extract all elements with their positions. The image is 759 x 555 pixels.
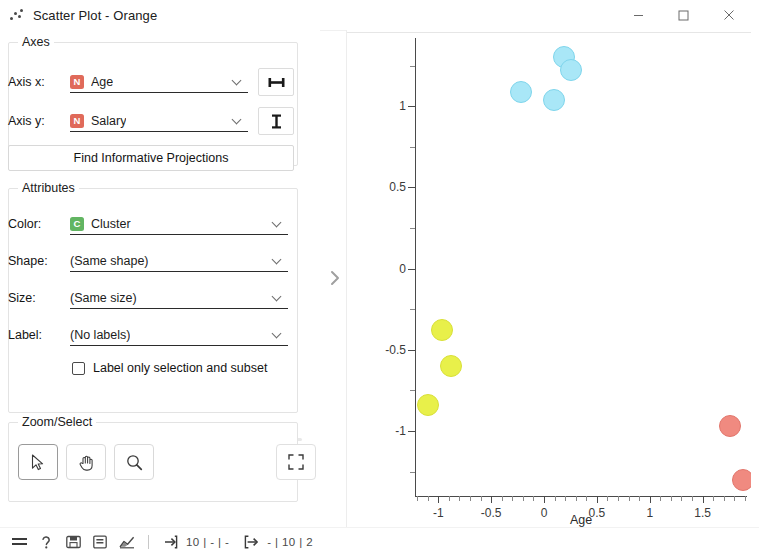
x-tick-minor [417,496,418,501]
variable-type-badge-categorical: C [70,217,84,231]
y-tick-minor [410,309,415,310]
scatter-point[interactable] [719,415,741,437]
panel-splitter[interactable] [321,30,347,527]
y-tick-label: -0.5 [385,343,406,357]
y-tick-label: 0 [399,262,406,276]
y-tick-minor [410,66,415,67]
x-tick-minor [607,496,608,501]
chevron-down-icon [273,256,282,265]
x-tick-minor [533,496,534,501]
label-label: Label: [8,328,70,342]
x-tick-minor [671,496,672,501]
x-tick [491,496,492,503]
color-combobox[interactable]: C Cluster [70,213,288,235]
label-only-selection-checkbox[interactable] [72,362,85,375]
scatter-point[interactable] [560,59,582,81]
scatter-point[interactable] [543,89,565,111]
main-area: Axes Axis x: N Age Axis y: N Salary [0,30,751,527]
label-combobox[interactable]: (No labels) [70,324,288,346]
y-tick-minor [410,390,415,391]
x-tick-minor [502,496,503,501]
minimize-button[interactable] [616,0,661,30]
chevron-down-icon [273,330,282,339]
axis-y-combobox[interactable]: N Salary [70,110,248,132]
shape-row: Shape: (Same shape) [8,250,298,272]
cursor-arrow-icon [31,454,46,471]
chevron-down-icon [233,116,242,125]
vertical-axis-icon [271,114,282,129]
shape-combobox[interactable]: (Same shape) [70,250,288,272]
fit-to-screen-icon [288,454,304,470]
x-tick-minor [555,496,556,501]
select-tool-button[interactable] [18,444,58,480]
y-tick [408,269,415,270]
y-tick-label: 1 [399,99,406,113]
x-tick-minor [523,496,524,501]
scatter-plot-canvas[interactable]: 10.50-0.5-1 -1-0.500.511.5 Salary Age [347,30,751,527]
x-tick-minor [618,496,619,501]
attributes-group-title: Attributes [18,181,79,195]
x-tick-minor [459,496,460,501]
input-arrow-icon [159,532,181,552]
menu-hamburger-icon[interactable] [8,532,30,552]
maximize-button[interactable] [661,0,706,30]
x-tick [438,496,439,503]
output-summary-text: - | 10 | 2 [267,536,313,548]
x-tick-minor [586,496,587,501]
x-tick-minor [692,496,693,501]
x-tick-label: 0 [541,506,548,520]
axis-x-value: Age [91,75,113,89]
x-tick-minor [629,496,630,501]
pan-tool-button[interactable] [66,444,106,480]
zoom-select-toolbar [18,444,154,480]
x-tick-minor [512,496,513,501]
label-row: Label: (No labels) [8,324,298,346]
status-bar: 10 | - | - - | 10 | 2 [0,527,759,555]
horizontal-axis-icon [268,77,285,88]
copy-icon[interactable] [89,532,111,552]
control-panel: Axes Axis x: N Age Axis y: N Salary [0,30,320,527]
chart-icon[interactable] [116,532,138,552]
x-tick-minor [713,496,714,501]
size-value: (Same size) [70,291,137,305]
input-summary-text: 10 | - | - [186,536,229,548]
variable-type-badge-numeric: N [70,114,84,128]
shape-value: (Same shape) [70,254,149,268]
axis-y-row: Axis y: N Salary [8,107,298,135]
size-row: Size: (Same size) [8,287,298,309]
zoom-tool-button[interactable] [114,444,154,480]
axis-y-orientation-button[interactable] [258,107,294,135]
output-arrow-icon [240,532,262,552]
y-tick [408,350,415,351]
label-only-selection-label: Label only selection and subset [93,361,267,375]
size-combobox[interactable]: (Same size) [70,287,288,309]
y-tick [408,187,415,188]
x-tick-minor [576,496,577,501]
magnifier-icon [126,454,143,471]
axis-x-combobox[interactable]: N Age [70,71,248,93]
scatter-point[interactable] [417,394,439,416]
scatter-point[interactable] [732,469,751,491]
scatter-point[interactable] [440,355,462,377]
x-tick-label: -0.5 [481,506,502,520]
find-informative-projections-label: Find Informative Projections [74,151,229,165]
scatter-plot-icon [9,7,25,23]
zoom-select-group-title: Zoom/Select [18,415,96,429]
find-informative-projections-button[interactable]: Find Informative Projections [8,145,294,171]
axis-x-orientation-button[interactable] [258,68,294,96]
x-tick-minor [470,496,471,501]
size-label: Size: [8,291,70,305]
help-question-icon[interactable] [35,532,57,552]
y-tick [408,106,415,107]
title-bar: Scatter Plot - Orange [0,0,751,31]
scatter-point[interactable] [510,81,532,103]
x-tick-minor [734,496,735,501]
y-tick-minor [410,147,415,148]
chevron-right-icon[interactable] [328,268,342,288]
close-button[interactable] [706,0,751,30]
x-tick [544,496,545,503]
scatter-point[interactable] [431,319,453,341]
reset-zoom-button[interactable] [276,444,316,480]
label-only-selection-row[interactable]: Label only selection and subset [72,361,267,375]
save-report-icon[interactable] [62,532,84,552]
